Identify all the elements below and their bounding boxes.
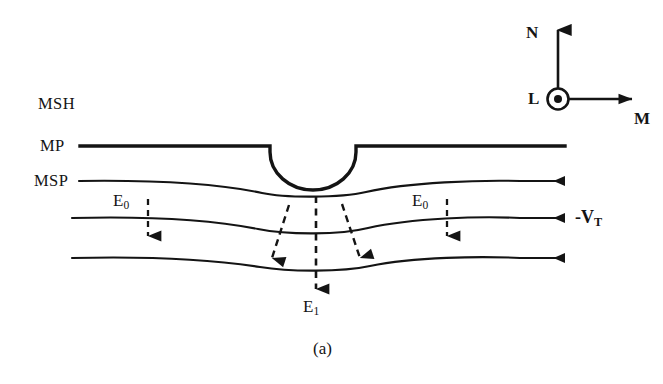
label-axis-l: L xyxy=(528,90,539,107)
label-msp: MSP xyxy=(34,173,68,190)
label-e1-base: E xyxy=(303,297,313,316)
label-e0-right-subscript: 0 xyxy=(422,199,428,212)
figure-container: MSH MP MSP E0 E0 E1 -VT N L M (a) xyxy=(0,0,663,384)
diagram-canvas xyxy=(0,0,663,384)
label-e0-right-base: E xyxy=(412,191,422,210)
label-e0-left: E0 xyxy=(113,192,129,211)
label-axis-n: N xyxy=(526,24,538,41)
streamline-lower xyxy=(72,257,565,270)
label-e1-center: E1 xyxy=(303,298,319,317)
coordinate-axes xyxy=(548,30,633,110)
label-vt-subscript: T xyxy=(594,215,602,229)
label-e1-subscript: 1 xyxy=(313,305,319,318)
label-axis-m: M xyxy=(634,110,650,127)
label-vt-base: -V xyxy=(575,207,594,227)
label-tangential-velocity: -VT xyxy=(575,208,602,228)
axis-l-dot xyxy=(554,95,562,103)
figure-caption: (a) xyxy=(313,340,332,357)
streamline-middle xyxy=(72,217,565,233)
label-e0-right: E0 xyxy=(412,192,428,211)
label-e0-left-base: E xyxy=(113,191,123,210)
label-e0-left-subscript: 0 xyxy=(123,199,129,212)
magnetopause-boundary xyxy=(80,146,565,190)
label-magnetosheath: MSH xyxy=(38,96,75,113)
label-magnetopause: MP xyxy=(40,138,65,155)
